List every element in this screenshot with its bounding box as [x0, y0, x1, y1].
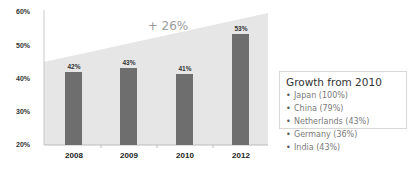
bullet-icon: •: [286, 89, 294, 102]
y-tick-label: 30%: [6, 108, 30, 115]
bullet-icon: •: [286, 128, 294, 141]
legend-list: •Japan (100%) •China (79%) •Netherlands …: [286, 89, 406, 154]
bar-2010: [176, 74, 193, 145]
bullet-icon: •: [286, 102, 294, 115]
legend-title: Growth from 2010: [286, 76, 406, 88]
legend-item-label: Japan (100%): [294, 91, 348, 100]
x-tick-label: 2008: [54, 151, 94, 160]
legend-item: •Japan (100%): [286, 89, 406, 102]
legend-item: •China (79%): [286, 102, 406, 115]
legend-item: •Netherlands (43%): [286, 115, 406, 128]
bar-2012: [232, 34, 249, 145]
growth-annotation: + 26%: [138, 19, 198, 33]
x-tick-label: 2010: [165, 151, 205, 160]
bar-2009: [120, 68, 137, 145]
legend-item-label: China (79%): [294, 104, 343, 113]
legend-item: •India (43%): [286, 141, 406, 154]
y-tick-label: 60%: [6, 8, 30, 15]
bullet-icon: •: [286, 141, 294, 154]
bar-2008: [65, 72, 82, 145]
legend-item-label: Netherlands (43%): [294, 117, 369, 126]
bullet-icon: •: [286, 115, 294, 128]
legend-item: •Germany (36%): [286, 128, 406, 141]
bar-value-label: 53%: [226, 25, 256, 32]
y-tick-label: 20%: [6, 141, 30, 148]
legend-item-label: India (43%): [294, 143, 340, 152]
y-tick-label: 40%: [6, 75, 30, 82]
y-tick-label: 50%: [6, 42, 30, 49]
bar-value-label: 41%: [170, 65, 200, 72]
growth-chart: 60% 50% 40% 30% 20% 2008 2009 2010 2012 …: [0, 0, 418, 171]
legend-box: Growth from 2010 •Japan (100%) •China (7…: [279, 71, 407, 129]
legend-item-label: Germany (36%): [294, 130, 357, 139]
bar-value-label: 42%: [59, 63, 89, 70]
x-tick-label: 2012: [221, 151, 261, 160]
bar-value-label: 43%: [114, 59, 144, 66]
x-tick-label: 2009: [109, 151, 149, 160]
